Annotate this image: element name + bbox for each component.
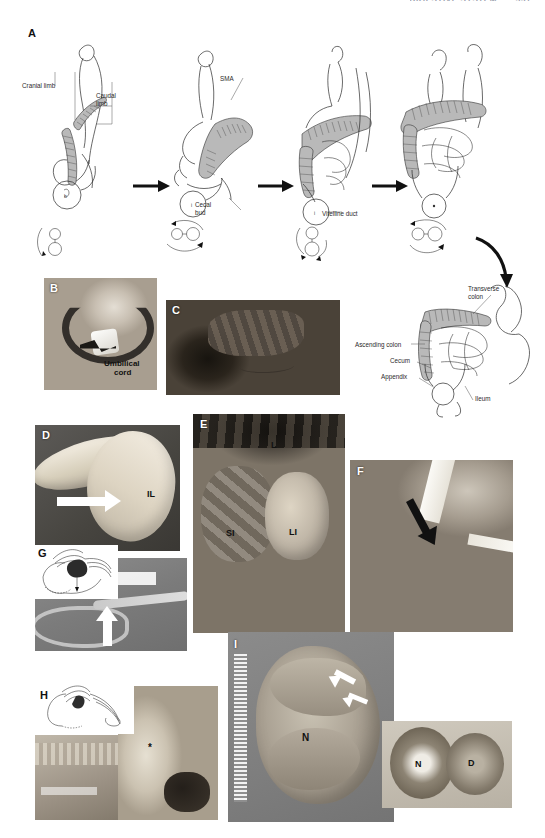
- label-sma: SMA: [220, 75, 234, 82]
- label-asterisk: *: [148, 742, 152, 753]
- curved-arrow-to-final: [476, 238, 513, 288]
- umbilical-vessel: [240, 360, 294, 373]
- rotation-key-1: [38, 228, 62, 256]
- rotation-key-2: [167, 220, 203, 251]
- label-small-intestine: SI: [226, 528, 235, 538]
- panel-f-photo: [350, 460, 513, 632]
- label-d-inset: D: [468, 758, 475, 768]
- stage-arrow-1: [133, 180, 170, 192]
- stage-1-midgut-loop: b: [38, 45, 113, 256]
- label-ascending-colon: Ascending colon: [355, 341, 401, 348]
- panel-c-photo: [166, 300, 340, 395]
- falciform-shadow: [193, 414, 345, 448]
- small-intestine-mass: [201, 466, 275, 562]
- panel-letter-e: E: [200, 419, 207, 430]
- label-ileum: Ileum: [475, 395, 490, 402]
- panel-b-photo: Umbilical cord: [44, 278, 157, 390]
- running-header-title: DIGESTIVE SYSTEM: [410, 0, 497, 1]
- label-appendix: Appendix: [381, 373, 407, 380]
- label-liver: L: [271, 440, 277, 450]
- label-transverse-colon-line2: colon: [468, 293, 483, 300]
- stage-arrow-3: [372, 180, 408, 192]
- white-up-arrow-shaft: [103, 620, 112, 646]
- page-number: 331: [516, 0, 531, 1]
- white-arrow-head: [105, 490, 121, 512]
- retractor-instrument: [418, 460, 456, 524]
- panel-d-photo: IL: [35, 425, 180, 551]
- final-anatomy-diagram: [395, 282, 545, 417]
- panel-letter-h: H: [40, 690, 48, 701]
- label-cecal-bud-line2: bud: [195, 209, 206, 216]
- rotation-key-3: [297, 227, 327, 261]
- svg-text:i: i: [191, 202, 192, 208]
- necrotic-bowel-area: [164, 772, 210, 812]
- panel-letter-g: G: [38, 548, 47, 559]
- label-n-inset: N: [415, 759, 422, 769]
- panel-i-histology-inset: N D: [382, 721, 512, 808]
- panel-a-diagram: b: [20, 38, 530, 268]
- label-caudal-limb-line2: limb: [96, 100, 108, 107]
- white-up-arrow-head: [96, 606, 118, 621]
- specimen-scale-marking: [41, 787, 97, 795]
- panel-h-inset-svg: [38, 682, 134, 734]
- panel-h-inset-drawing: [38, 682, 134, 734]
- label-cranial-limb: Cranial limb: [22, 82, 55, 89]
- panel-letter-b: B: [50, 283, 58, 294]
- label-il: IL: [147, 489, 155, 499]
- measuring-ruler: [234, 654, 247, 802]
- mucosal-folds: [35, 743, 120, 765]
- panel-h-specimen-left: [35, 735, 120, 820]
- panel-g-inset-drawing: [35, 545, 118, 599]
- rotation-key-4: [410, 220, 446, 253]
- panel-letter-c: C: [172, 305, 180, 316]
- stage-2-midgut-loop: i: [167, 51, 253, 251]
- panel-letter-d: D: [42, 430, 50, 441]
- svg-text:b: b: [64, 193, 67, 199]
- label-caudal-limb-line1: Caudal: [96, 92, 116, 99]
- label-vitelline-duct: Vitelline duct: [322, 210, 358, 217]
- label-umbilical-cord-line2: cord: [114, 368, 131, 377]
- herniated-bowel-loops: [208, 310, 304, 356]
- panel-i-photo: N: [228, 632, 394, 822]
- stage-arrow-2: [258, 180, 294, 192]
- label-cecum: Cecum: [390, 357, 410, 364]
- label-transverse-colon-line1: Transverse: [468, 285, 499, 292]
- label-umbilical-cord-line1: Umbilical: [104, 359, 140, 368]
- histology-section-dilated: [446, 733, 504, 795]
- stage-4-midgut-loop: [401, 45, 486, 253]
- panel-letter-a: A: [28, 28, 36, 39]
- white-arrow-shaft: [57, 497, 107, 506]
- panel-letter-i: I: [234, 639, 237, 650]
- label-large-intestine: LI: [289, 527, 297, 537]
- label-cecal-bud-line1: Cecal: [195, 201, 211, 208]
- running-header: DIGESTIVE SYSTEM 331: [410, 0, 531, 1]
- large-intestine-mass: [265, 472, 329, 560]
- stage-3-midgut-loop: i: [297, 46, 372, 261]
- figure-root: DIGESTIVE SYSTEM 331 A b: [0, 0, 545, 838]
- panel-letter-f: F: [357, 466, 364, 477]
- second-instrument: [467, 534, 513, 554]
- histology-section-necrotic: [390, 727, 454, 799]
- label-n-main: N: [302, 732, 309, 743]
- svg-text:i: i: [314, 210, 315, 216]
- panel-e-photo: L SI LI: [193, 414, 345, 633]
- panel-g-inset-svg: [35, 545, 118, 599]
